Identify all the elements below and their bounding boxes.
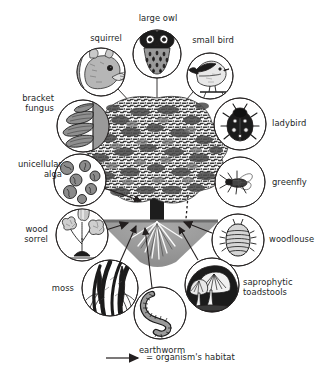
greenfly-icon[interactable] (215, 157, 265, 207)
woodlouse-icon[interactable] (212, 214, 264, 266)
label-unicellular-alga: unicellular alga (0, 159, 62, 179)
earthworm-icon[interactable] (134, 287, 186, 339)
bird-icon[interactable] (187, 53, 233, 99)
toadstool-icon[interactable] (185, 258, 239, 312)
moss-icon[interactable] (82, 260, 138, 316)
label-greenfly: greenfly (272, 177, 328, 187)
owl-icon[interactable] (133, 29, 181, 78)
label-large-owl: large owl (130, 13, 186, 23)
legend-text: = organism's habitat (146, 352, 286, 362)
label-squirrel: squirrel (78, 33, 134, 43)
squirrel-icon[interactable] (74, 48, 126, 96)
ladybird-icon[interactable] (214, 98, 266, 150)
label-wood-sorrel: wood sorrel (3, 224, 48, 244)
diagram-canvas: squirrel large owl small bird ladybird g… (0, 0, 329, 378)
label-bracket-fungus: bracket fungus (4, 93, 54, 113)
label-woodlouse: woodlouse (269, 234, 329, 244)
label-ladybird: ladybird (272, 118, 328, 128)
wood-sorrel-icon[interactable] (56, 206, 108, 261)
tree-habitat-illustration (0, 0, 329, 378)
label-moss: moss (32, 283, 74, 293)
label-small-bird: small bird (184, 35, 242, 45)
label-saprophytic-toadstools: saprophytic toadstools (243, 277, 327, 297)
